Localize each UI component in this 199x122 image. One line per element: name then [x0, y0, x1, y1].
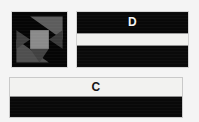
panel-pinwheel-block[interactable]	[11, 11, 68, 68]
panel-d-bottom-dark-band	[77, 46, 188, 67]
pinwheel-center-square	[30, 30, 49, 49]
panel-d-label: D	[77, 15, 188, 29]
panel-d[interactable]: D	[76, 11, 189, 68]
pinwheel-pattern-graphic	[12, 12, 67, 67]
panel-d-middle-light-band	[77, 33, 188, 46]
panel-c[interactable]: C	[9, 77, 183, 118]
figure-canvas: D C	[0, 0, 199, 122]
panel-c-bottom-dark-band	[10, 97, 182, 117]
panel-d-top-dark-band: D	[77, 12, 188, 33]
panel-c-top-light-band: C	[10, 78, 182, 97]
panel-c-label: C	[10, 81, 182, 94]
